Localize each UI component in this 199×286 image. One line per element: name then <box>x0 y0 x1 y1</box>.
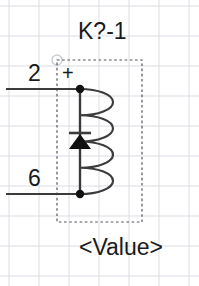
junction-dot-bottom <box>76 190 84 198</box>
designator-label[interactable]: K?-1 <box>78 20 127 43</box>
pin-number-6[interactable]: 6 <box>28 167 41 190</box>
schematic-symbol-canvas: K?-1 2 6 + <Value> <box>0 0 199 286</box>
pin-number-2[interactable]: 2 <box>28 62 41 85</box>
value-label[interactable]: <Value> <box>79 236 163 259</box>
component-bounding-box[interactable] <box>57 60 142 222</box>
polarity-plus-marker: + <box>62 63 74 83</box>
junction-dot-top <box>76 85 84 93</box>
